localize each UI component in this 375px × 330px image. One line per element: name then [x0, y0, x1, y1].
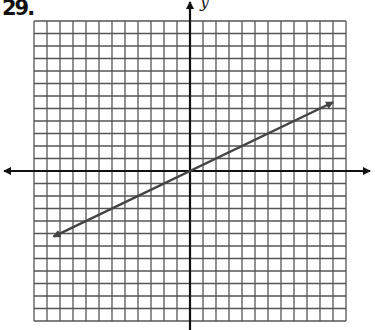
plotted-line [54, 102, 334, 236]
coordinate-plane [0, 0, 375, 330]
